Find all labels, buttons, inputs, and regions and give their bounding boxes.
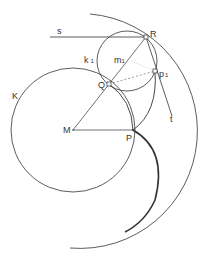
arc-p1-P [133,71,155,130]
label-M: M [63,125,71,135]
spiral-curve [125,130,159,232]
point-R [144,35,148,39]
point-P [132,129,134,131]
point-M [72,129,74,131]
geometry-diagram: s R k1 m1 p1 Q K M P t [0,0,202,260]
label-t: t [170,114,173,124]
label-p1: p1 [159,69,169,79]
point-p1 [153,69,157,73]
label-Q: Q [98,80,105,90]
label-P: P [126,133,132,143]
label-s: s [57,26,62,36]
dotted-m1-p1 [131,61,155,71]
label-K: K [12,91,18,101]
label-R: R [150,29,157,39]
label-k1: k1 [84,55,95,65]
label-m1: m1 [114,55,126,65]
point-Q [107,82,111,86]
